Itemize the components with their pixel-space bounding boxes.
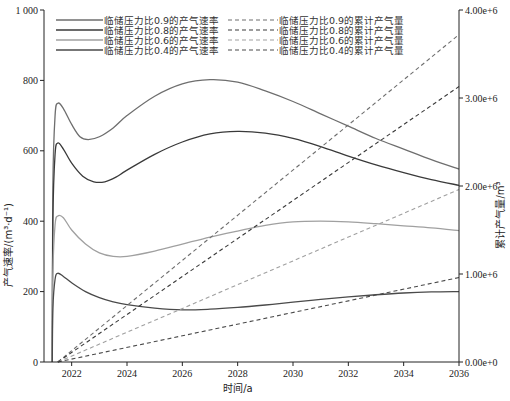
cumulative-series-7 (58, 278, 459, 362)
cumulative-series-6 (58, 190, 459, 362)
right-y-tick-label: 0.00e+0 (465, 357, 498, 368)
right-y-tick-label: 2.00e+6 (465, 181, 498, 192)
x-tick-label: 2030 (283, 368, 303, 379)
right-y-axis-ticks: 0.00e+01.00e+62.00e+63.00e+64.00e+6 (459, 5, 498, 368)
x-axis-ticks: 20222024202620282030203220342036 (62, 362, 469, 379)
right-y-tick-label: 4.00e+6 (465, 5, 498, 16)
left-y-axis-title: 产气速率/(m³·d⁻¹) (2, 203, 14, 287)
right-y-tick-label: 3.00e+6 (465, 93, 498, 104)
x-tick-label: 2024 (117, 368, 137, 379)
cumulative-series-5 (58, 87, 459, 362)
left-y-tick-label: 800 (23, 75, 38, 86)
left-y-tick-label: 0 (33, 357, 38, 368)
cumulative-series-4 (58, 35, 459, 362)
legend: 临储压力比0.9的产气速率临储压力比0.8的产气速率临储压力比0.6的产气速率临… (56, 15, 404, 56)
x-tick-label: 2036 (449, 368, 469, 379)
rate-series-2 (52, 215, 459, 362)
x-tick-label: 2034 (394, 368, 414, 379)
x-tick-label: 2028 (228, 368, 248, 379)
left-y-tick-label: 1 000 (16, 5, 39, 16)
legend-label: 临储压力比0.4的累计产气量 (279, 45, 404, 56)
left-y-tick-label: 600 (23, 145, 38, 156)
series-layer (52, 35, 459, 362)
x-tick-label: 2022 (62, 368, 82, 379)
rate-series-3 (52, 273, 459, 362)
left-y-tick-label: 400 (23, 216, 38, 227)
rate-series-1 (52, 131, 459, 362)
rate-series-0 (52, 80, 459, 362)
x-axis-title: 时间/a (223, 382, 253, 394)
right-y-tick-label: 1.00e+6 (465, 269, 498, 280)
left-y-tick-label: 200 (23, 286, 38, 297)
gas-production-chart: 20222024202620282030203220342036 0200400… (0, 0, 510, 401)
x-tick-label: 2026 (172, 368, 192, 379)
x-tick-label: 2032 (338, 368, 358, 379)
right-y-axis-title: 累计产气量/m³ (494, 181, 506, 248)
left-y-axis-ticks: 02004006008001 000 (16, 5, 45, 368)
legend-label: 临储压力比0.4的产气速率 (104, 45, 219, 56)
